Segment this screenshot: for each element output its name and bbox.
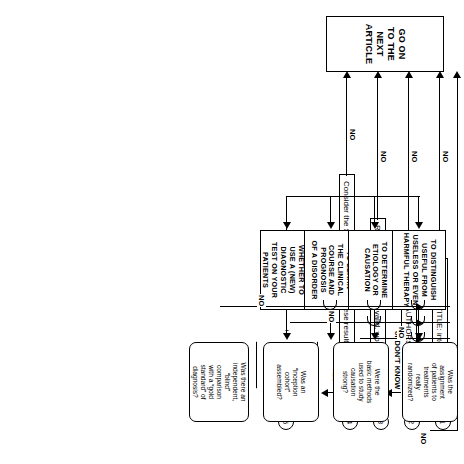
question-line: assignment [438,365,446,399]
question-line: with a “gold [207,365,215,399]
guide-question-therapy: Was the assignment of patients to treatm… [402,342,458,422]
no-label-2: NO [410,150,419,163]
intent-arrow-therapy [415,222,423,229]
link-diagnosis-question [286,310,287,334]
question-line: really [414,374,422,390]
no-label-3: NO [379,150,388,163]
intent-branch-prognosis [330,197,331,223]
question-line: Was an [299,371,307,393]
no-label-4: NO [348,128,357,141]
yes-connector-2 [391,392,401,393]
question-line: causation [349,368,357,396]
terminal-line: TO THE [385,27,396,61]
intent-text-line: PATIENTS [261,252,270,288]
intent-text-line: USEFUL FROM [419,243,428,297]
intent-branch-therapy [418,197,419,223]
question-line: Was the [446,370,454,394]
intent-text-line: THE CLINICAL [335,244,344,296]
question-line: standard” of [199,364,207,399]
question-line: “blind” [223,373,231,391]
intent-box-therapy: TO DISTINGUISH USEFUL FROM USELESS OR EV… [392,230,446,310]
terminal-line: GO ON [396,28,407,59]
no-label-1: NO [441,150,450,163]
intent-arrow-diagnosis [283,222,291,229]
no-return-prognosis-vertical [290,322,346,323]
no-label-diagnosis: NO [257,294,266,307]
intent-branch-etiology [374,197,375,223]
intent-text-line: PROGNOSIS [318,247,327,292]
guide-question-etiology: Were the basic methods used to study cau… [333,342,389,422]
question-line: assembled? [275,364,283,400]
intent-text-line: ETIOLOGY OR [371,244,380,296]
no-arrow-2 [405,71,413,78]
no-return-therapy-vertical [430,430,458,431]
question-line: diagnosis? [191,366,199,398]
question-line: comparison [215,365,223,399]
question-line: independent, [231,363,239,401]
intent-text-line: TO DISTINGUISH [428,240,437,301]
question-line: treatments [422,366,430,397]
wire-hop [412,316,426,326]
arrow-diagnosis-question [283,333,291,340]
intent-text-line: CAUSATION [362,248,371,292]
arrow-prognosis-question [327,333,335,340]
question-line: Were the [373,369,381,396]
intent-text-line: COURSE AND [327,245,336,295]
question-line: Was there an [239,363,247,402]
no-path-4 [346,78,347,176]
no-return-diagnosis-vertical [220,306,276,307]
intent-bus-vertical [287,196,420,197]
guide-question-diagnosis: Was there an independent, “blind” compar… [189,342,249,422]
no-return-etiology-vertical [360,338,416,339]
intent-text-line: DIAGNOSTIC [278,246,287,293]
intent-text-line: TO DETERMINE [379,242,388,299]
intent-text-line: USE A (NEW) [287,246,296,293]
flowchart-canvas: GO ON TO THE NEXT ARTICLE Look at the TI… [62,0,464,464]
question-line: strong? [341,371,349,393]
terminal-next-article: GO ON TO THE NEXT ARTICLE [326,16,444,72]
question-line: cohort” [283,372,291,393]
no-arrow-3 [374,71,382,78]
question-line: used to study [357,362,365,401]
intent-text-line: USELESS OR EVEN [410,235,419,306]
question-line: of patients to [430,363,438,401]
no-return-therapy-arrow [454,71,462,78]
intent-arrow-etiology [371,222,379,229]
intent-text-line: OF A DISORDER [309,240,318,299]
wire-hop [412,332,426,342]
yes-arrow-4 [321,389,328,397]
intent-text-line: TEST ON YOUR [269,242,278,298]
terminal-line: NEXT [374,32,385,57]
intent-arrow-prognosis [327,222,335,229]
no-arrow-4 [343,71,351,78]
no-arrow-1 [436,71,444,78]
question-line: basic methods [365,361,373,404]
no-path-3 [377,78,378,220]
terminal-line: ARTICLE [363,24,374,64]
no-return-therapy-horizontal [457,78,458,431]
no-return-prognosis-to-bus [346,322,450,323]
no-label-etiology: NO [397,326,406,339]
guide-question-prognosis: Was an “inception cohort” assembled? [263,342,319,422]
question-line: randomized? [406,363,414,401]
intent-text-line: HARMFUL THERAPY [401,233,410,308]
no-label-therapy: NO [419,432,428,445]
intent-branch-diagnosis [286,197,287,223]
question-line: “inception [291,368,299,397]
no-label-prognosis: NO [327,310,336,323]
no-return-etiology-to-bus [422,338,450,339]
